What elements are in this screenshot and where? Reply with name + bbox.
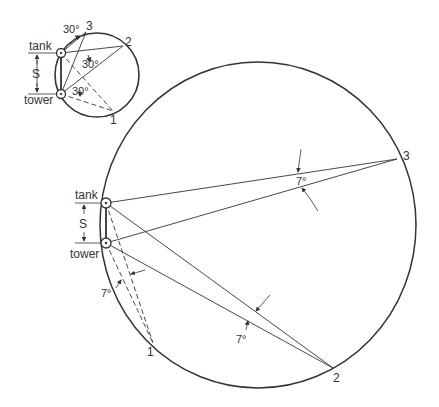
large-tank-label: tank [75, 188, 99, 202]
large-point-1: 1 [147, 345, 154, 359]
small-angle-label: 30° [72, 85, 89, 97]
large-angle-label: 7° [236, 333, 247, 345]
small-tank-label: tank [29, 39, 53, 53]
small-point-2: 2 [125, 35, 132, 49]
large-angle-label: 7° [296, 175, 307, 187]
small-angle-label: 30° [63, 23, 80, 35]
large-point-2: 2 [333, 371, 340, 385]
resection-diagram: tank tower S 30° 30° 30° 1 2 3 t [0, 0, 439, 407]
small-spacing-label: S [32, 67, 40, 81]
large-point-3: 3 [403, 149, 410, 163]
large-tower-label: tower [70, 247, 99, 261]
large-angle-label: 7° [101, 287, 112, 299]
small-point-3: 3 [86, 19, 93, 33]
small-angle-label: 30° [82, 58, 99, 70]
large-spacing-label: S [79, 217, 87, 231]
large-circle [100, 62, 416, 388]
small-point-1: 1 [110, 113, 117, 127]
diagram-canvas: tank tower S 30° 30° 30° 1 2 3 t [0, 0, 439, 407]
small-tower-label: tower [24, 93, 53, 107]
